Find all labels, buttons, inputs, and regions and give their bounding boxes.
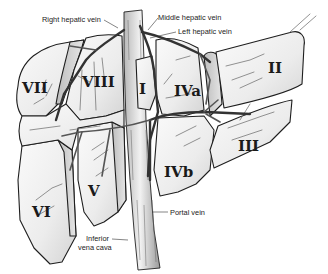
- segment-label-i: I: [139, 80, 146, 98]
- svg-text:Right hepatic vein: Right hepatic vein: [42, 15, 101, 24]
- callout-portal-vein: Portal vein: [152, 208, 205, 217]
- segment-label-iva: IVa: [174, 82, 201, 100]
- segment-label-viii: VIII: [81, 73, 115, 91]
- segment-label-ivb: IVb: [164, 163, 193, 181]
- svg-text:Left hepatic vein: Left hepatic vein: [178, 27, 232, 36]
- liver-segments-diagram: VII VIII VI V I IVa IVb: [0, 0, 328, 274]
- svg-text:Portal vein: Portal vein: [170, 208, 205, 217]
- segment-label-vii: VII: [21, 79, 48, 97]
- segment-label-iii: III: [238, 137, 259, 155]
- segment-iva: IVa: [156, 38, 204, 116]
- segment-label-vi: VI: [31, 203, 51, 221]
- callout-right-hepatic-vein: Right hepatic vein: [42, 15, 118, 28]
- segment-ivb: IVb: [154, 116, 214, 196]
- svg-text:vena cava: vena cava: [78, 243, 113, 252]
- svg-text:Middle hepatic vein: Middle hepatic vein: [158, 13, 221, 22]
- segment-label-v: V: [87, 182, 100, 200]
- svg-text:Inferior: Inferior: [86, 234, 110, 243]
- segment-label-ii: II: [268, 59, 282, 77]
- segment-iii: III: [210, 100, 292, 168]
- segment-vi: VI: [18, 140, 76, 264]
- callout-left-hepatic-vein: Left hepatic vein: [150, 27, 232, 38]
- inferior-vena-cava: [124, 10, 160, 270]
- callout-inferior-vena-cava: Inferior vena cava: [78, 234, 128, 252]
